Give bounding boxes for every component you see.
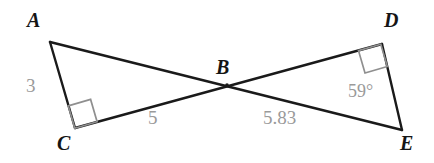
measure-label-angle-e: 59° — [348, 82, 373, 100]
vertex-label-c: C — [57, 133, 70, 153]
measure-label-ac: 3 — [26, 76, 36, 95]
vertex-label-e: E — [400, 133, 413, 153]
vertex-label-a: A — [27, 10, 40, 30]
intersection-point-b — [225, 83, 229, 87]
vertex-label-b: B — [216, 57, 229, 77]
vertex-label-d: D — [384, 10, 398, 30]
measure-label-cb: 5 — [148, 108, 158, 127]
geometry-figure: A B C D E 3 5 5.83 59° — [0, 0, 434, 163]
measure-label-be: 5.83 — [263, 108, 296, 127]
